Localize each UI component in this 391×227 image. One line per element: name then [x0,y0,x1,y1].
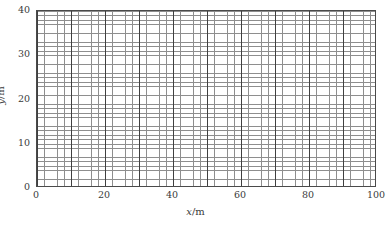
ytick-label-0: 0 [2,182,30,192]
x-axis-label-unit: /m [192,206,205,217]
xtick-label-100: 100 [367,190,385,200]
xtick-label-60: 60 [234,190,246,200]
chart-figure: 0 20 40 60 80 100 0 10 20 30 40 x/m y/m [0,0,391,227]
vertical-minor-gridlines [37,11,375,186]
ytick-label-10: 10 [2,138,30,148]
horizontal-minor-gridlines [37,11,375,186]
ytick-label-30: 30 [2,49,30,59]
ytick-label-20: 20 [2,94,30,104]
ytick-label-40: 40 [2,5,30,15]
x-axis-label: x/m [0,206,391,217]
xtick-label-20: 20 [98,190,110,200]
y-axis-label-unit: /m [0,86,6,99]
y-axis-label: y/m [0,86,6,105]
plot-area [36,10,376,187]
vertical-major-gridlines [37,11,375,186]
y-axis-label-variable: y [0,99,6,105]
xtick-label-80: 80 [302,190,314,200]
xtick-label-40: 40 [166,190,178,200]
xtick-label-0: 0 [33,190,39,200]
